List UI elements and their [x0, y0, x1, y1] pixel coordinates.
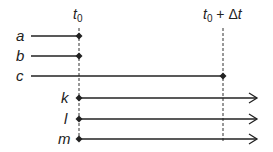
- t0-label: t0: [73, 6, 83, 24]
- line-label-m: m: [58, 130, 71, 147]
- line-label-a: a: [16, 27, 24, 44]
- line-label-b: b: [16, 47, 24, 64]
- t0-plus-delta-t-label: t0 + Δt: [203, 6, 243, 24]
- diamond-end-b-icon: [76, 53, 83, 60]
- timeline-diagram: t0 t0 + Δt a b c k l m: [0, 0, 273, 152]
- line-label-k: k: [61, 89, 70, 106]
- diamond-end-c-icon: [220, 73, 227, 80]
- line-label-c: c: [16, 67, 24, 84]
- diamond-end-a-icon: [76, 33, 83, 40]
- line-label-l: l: [64, 110, 68, 127]
